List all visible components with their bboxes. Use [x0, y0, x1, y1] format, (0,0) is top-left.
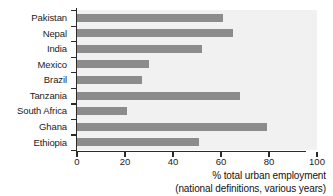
bar-pakistan: [77, 14, 223, 22]
y-axis-tick-7: [71, 119, 77, 120]
bar-row-pakistan: [77, 10, 317, 26]
y-axis-tick-8: [71, 134, 77, 135]
x-axis-title-line2: (national definitions, various years): [0, 183, 326, 196]
y-axis-tick-6: [71, 103, 77, 104]
bar-ethiopia: [77, 138, 199, 146]
y-axis-tick-2: [71, 41, 77, 42]
y-axis-tick-4: [71, 72, 77, 73]
y-axis-ticks: [71, 10, 77, 150]
bar-row-ethiopia: [77, 135, 317, 151]
x-axis-tick-label-80: 80: [264, 157, 275, 167]
x-axis-tick-label-40: 40: [168, 157, 179, 167]
x-axis-tick-label-0: 0: [74, 157, 79, 167]
bar-row-brazil: [77, 72, 317, 88]
y-axis-label-nepal: Nepal: [0, 26, 72, 42]
y-axis-label-pakistan: Pakistan: [0, 10, 72, 26]
bar-row-nepal: [77, 26, 317, 42]
y-axis-label-south-africa: South Africa: [0, 103, 72, 119]
x-axis-title-line1: % total urban employment: [0, 170, 326, 183]
y-axis-label-ghana: Ghana: [0, 119, 72, 135]
plot-area: [77, 10, 317, 150]
y-axis-tick-9: [71, 150, 77, 151]
y-axis-tick-1: [71, 26, 77, 27]
y-axis-label-tanzania: Tanzania: [0, 88, 72, 104]
y-axis-tick-0: [71, 10, 77, 11]
bar-row-mexico: [77, 57, 317, 73]
bar-nepal: [77, 29, 233, 37]
x-axis-title: % total urban employment (national defin…: [0, 170, 330, 195]
bar-mexico: [77, 60, 149, 68]
bar-tanzania: [77, 92, 240, 100]
bar-series: [77, 10, 317, 150]
y-axis-tick-5: [71, 88, 77, 89]
y-axis-label-ethiopia: Ethiopia: [0, 135, 72, 151]
y-axis-label-brazil: Brazil: [0, 72, 72, 88]
x-axis-tick-label-100: 100: [309, 157, 325, 167]
bar-row-india: [77, 41, 317, 57]
bar-row-tanzania: [77, 88, 317, 104]
bar-south-africa: [77, 107, 127, 115]
bar-india: [77, 45, 202, 53]
bar-row-south-africa: [77, 103, 317, 119]
bar-ghana: [77, 123, 267, 131]
x-axis-tick-label-20: 20: [120, 157, 131, 167]
y-axis-label-mexico: Mexico: [0, 57, 72, 73]
y-axis-label-india: India: [0, 41, 72, 57]
bar-brazil: [77, 76, 142, 84]
bar-chart: Pakistan Nepal India Mexico Brazil Tanza…: [0, 0, 333, 196]
x-axis-tick-labels: 020406080100: [0, 157, 333, 169]
y-axis-tick-3: [71, 57, 77, 58]
y-axis-category-labels: Pakistan Nepal India Mexico Brazil Tanza…: [0, 10, 72, 150]
bar-row-ghana: [77, 119, 317, 135]
x-axis-tick-label-60: 60: [216, 157, 227, 167]
